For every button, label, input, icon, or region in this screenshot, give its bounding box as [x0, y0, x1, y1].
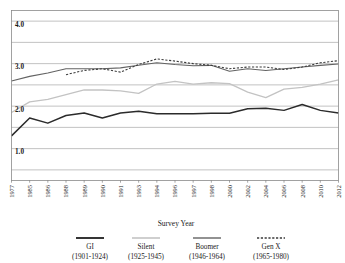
x-tick-label: 1993 — [135, 185, 142, 198]
x-tick-label: 2010 — [317, 185, 324, 198]
legend: GI(1901-1924)Silent(1925-1945)Boomer(194… — [72, 238, 290, 261]
y-tick-label: 2.0 — [15, 106, 24, 114]
x-tick-label: 2008 — [299, 185, 306, 198]
x-tick-label: 2002 — [244, 185, 251, 198]
x-tick-label: 1997 — [190, 184, 197, 198]
legend-label-gen-x: Gen X — [262, 243, 282, 251]
y-axis-ticks: 1.02.03.04.0 — [15, 21, 24, 157]
series-line-gi — [12, 104, 339, 135]
generation-line-chart: 1.02.03.04.0 197719851986198819891990199… — [0, 0, 345, 263]
x-axis-label: Survey Year — [158, 219, 195, 228]
y-tick-label: 3.0 — [15, 63, 24, 71]
x-tick-label: 1988 — [62, 185, 69, 198]
x-tick-label: 1994 — [153, 184, 160, 198]
x-tick-label: 1989 — [81, 185, 88, 198]
x-tick-label: 1986 — [44, 185, 51, 198]
x-tick-label: 2004 — [262, 184, 269, 198]
legend-years-silent: (1925-1945) — [128, 253, 165, 261]
legend-label-boomer: Boomer — [195, 243, 219, 251]
x-axis-ticks: 1977198519861988198919901991199319941996… — [8, 181, 342, 198]
x-tick-label: 1985 — [26, 185, 33, 198]
x-tick-label: 2012 — [335, 185, 342, 198]
x-tick-label: 1996 — [171, 185, 178, 198]
y-tick-label: 1.0 — [15, 148, 24, 156]
series-line-boomer — [12, 63, 339, 81]
legend-years-gi: (1901-1924) — [72, 253, 109, 261]
x-tick-label: 2006 — [280, 185, 287, 198]
chart-figure: 1.02.03.04.0 197719851986198819891990199… — [0, 0, 345, 263]
x-tick-label: 1991 — [117, 185, 124, 198]
legend-years-boomer: (1946-1964) — [189, 253, 226, 261]
legend-years-gen-x: (1965-1980) — [253, 253, 290, 261]
x-tick-label: 1977 — [8, 184, 15, 198]
legend-label-gi: GI — [86, 243, 94, 251]
x-tick-label: 1998 — [208, 185, 215, 198]
series-line-gen-x — [66, 59, 339, 75]
x-tick-label: 1990 — [99, 185, 106, 198]
y-tick-label: 4.0 — [15, 21, 24, 29]
legend-label-silent: Silent — [138, 243, 155, 251]
x-tick-label: 2000 — [226, 185, 233, 198]
series-group — [12, 59, 339, 136]
